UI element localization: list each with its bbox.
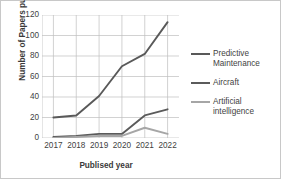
y-tick-label: 80	[5, 52, 39, 60]
y-tick-label: 120	[5, 11, 39, 19]
y-tick-label: 0	[5, 134, 39, 142]
x-axis-tick-labels: 201720182019202020212022	[42, 141, 179, 155]
x-axis-title: Publised year	[31, 161, 181, 170]
legend-line-swatch-icon	[191, 53, 210, 55]
series-line	[53, 128, 167, 138]
legend-entry[interactable]: Artificial intelligence	[191, 97, 279, 117]
y-axis-tick-labels: 020406080100120	[1, 15, 39, 138]
y-tick-label: 40	[5, 93, 39, 101]
series-line	[53, 22, 167, 117]
x-tick-label: 2022	[153, 141, 183, 151]
legend-label: Predictive Maintenance	[213, 49, 260, 69]
plot-area	[42, 15, 179, 138]
chart-legend: Predictive MaintenanceAircraftArtificial…	[191, 49, 279, 126]
legend-entry[interactable]: Aircraft	[191, 78, 279, 88]
legend-line-swatch-icon	[191, 101, 210, 103]
legend-entry[interactable]: Predictive Maintenance	[191, 49, 279, 69]
legend-line-swatch-icon	[191, 82, 210, 84]
y-tick-label: 60	[5, 73, 39, 81]
plot-svg	[42, 15, 179, 138]
legend-label: Artificial intelligence	[213, 97, 254, 117]
series-line	[53, 109, 167, 137]
line-chart: Number of Papers published 0204060801001…	[0, 0, 281, 179]
legend-label: Aircraft	[213, 78, 239, 88]
y-tick-label: 100	[5, 32, 39, 40]
y-tick-label: 20	[5, 114, 39, 122]
